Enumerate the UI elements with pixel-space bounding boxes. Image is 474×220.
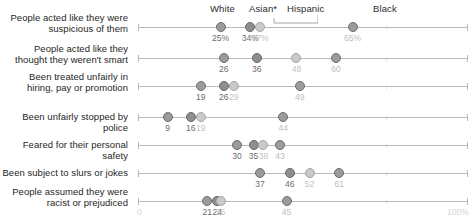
axis-end-tick <box>138 198 139 205</box>
data-point-asian <box>186 112 196 122</box>
data-point-hispanic <box>255 22 265 32</box>
axis-end-tick <box>467 83 468 90</box>
data-point-hispanic <box>305 168 315 178</box>
data-point-hispanic <box>216 196 226 206</box>
data-point-white <box>196 81 206 91</box>
legend-item-hispanic: Hispanic <box>287 3 324 14</box>
data-point-asian <box>219 81 229 91</box>
data-point-asian <box>249 140 259 150</box>
chart-row: People assumed they wereracist or prejud… <box>0 188 474 216</box>
axis-end-tick <box>138 142 139 149</box>
axis-end-tick <box>467 55 468 62</box>
data-point-hispanic <box>258 140 268 150</box>
row-axis-line <box>138 145 468 146</box>
data-point-white <box>255 168 265 178</box>
chart-row: People acted like theythought they weren… <box>0 45 474 73</box>
data-point-black <box>348 22 358 32</box>
axis-end-tick <box>467 170 468 177</box>
data-point-black <box>275 140 285 150</box>
data-point-asian <box>245 22 255 32</box>
data-label-black: 45 <box>282 207 291 217</box>
axis-end-tick <box>138 114 139 121</box>
dot-plot-chart: White Asian* Hispanic Black People acted… <box>0 0 474 220</box>
data-point-white <box>232 140 242 150</box>
data-point-hispanic <box>291 53 301 63</box>
data-point-white <box>216 22 226 32</box>
row-label: People assumed they wereracist or prejud… <box>0 187 128 208</box>
data-point-black <box>334 168 344 178</box>
axis-mid-tick <box>386 200 387 204</box>
chart-row: Been unfairly stopped by police9161944 <box>0 104 474 132</box>
row-label: Been treated unfairly inhiring, pay or p… <box>0 72 128 93</box>
data-point-black <box>331 53 341 63</box>
data-point-white <box>202 196 212 206</box>
data-point-hispanic <box>229 81 239 91</box>
row-label: People acted like theythought they weren… <box>0 44 128 65</box>
axis-mid-tick <box>386 26 387 30</box>
axis-mid-tick <box>386 144 387 148</box>
data-point-white <box>163 112 173 122</box>
axis-mid-tick <box>386 85 387 89</box>
axis-end-tick <box>138 83 139 90</box>
axis-end-tick <box>138 170 139 177</box>
legend-item-asian: Asian* <box>249 3 277 14</box>
row-label: Feared for their personal safety <box>0 140 128 161</box>
chart-row: Been treated unfairly inhiring, pay or p… <box>0 73 474 101</box>
row-axis-line <box>138 27 468 28</box>
row-label: Been subject to slurs or jokes <box>0 168 128 179</box>
axis-mid-tick <box>386 172 387 176</box>
axis-end-tick <box>138 55 139 62</box>
axis-end-tick <box>467 114 468 121</box>
chart-row: People acted like they weresuspicious of… <box>0 14 474 42</box>
row-label: People acted like they weresuspicious of… <box>0 13 128 34</box>
axis-start-label: 0 <box>137 207 142 217</box>
data-point-hispanic <box>196 112 206 122</box>
axis-end-tick <box>138 24 139 31</box>
data-label-white: 25% <box>212 33 229 43</box>
axis-end-tick <box>467 142 468 149</box>
row-axis-line <box>138 58 468 59</box>
axis-end-label: 100% <box>447 207 469 217</box>
data-label-black: 65% <box>344 33 361 43</box>
legend-item-white: White <box>210 3 235 14</box>
data-point-asian <box>252 53 262 63</box>
data-label-asian: 26 <box>219 92 228 102</box>
data-label-hispanic: 29 <box>229 92 238 102</box>
data-label-hispanic: 37% <box>252 33 269 43</box>
row-axis-line <box>138 201 468 202</box>
axis-end-tick <box>467 198 468 205</box>
data-label-hispanic: 25 <box>216 207 225 217</box>
data-label-white: 19 <box>196 92 205 102</box>
data-label-black: 49 <box>295 92 304 102</box>
axis-mid-tick <box>386 57 387 61</box>
chart-row: Feared for their personal safety30353843 <box>0 132 474 160</box>
data-point-black <box>278 112 288 122</box>
axis-end-tick <box>467 24 468 31</box>
data-point-white <box>219 53 229 63</box>
axis-mid-tick <box>386 116 387 120</box>
legend-item-black: Black <box>373 3 397 14</box>
row-label: Been unfairly stopped by police <box>0 112 128 133</box>
chart-row: Been subject to slurs or jokes37465261 <box>0 160 474 188</box>
row-axis-line <box>138 173 468 174</box>
data-point-black <box>295 81 305 91</box>
data-label-white: 21 <box>203 207 212 217</box>
data-point-black <box>282 196 292 206</box>
data-point-asian <box>285 168 295 178</box>
